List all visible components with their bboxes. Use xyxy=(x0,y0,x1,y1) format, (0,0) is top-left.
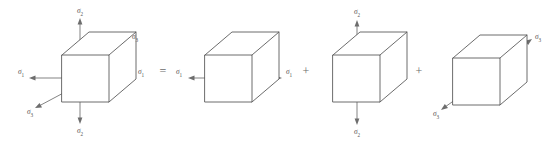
label-sigma-2-top: σ2 xyxy=(77,6,84,17)
label-sigma-2-top: σ2 xyxy=(354,7,361,18)
cube-front-face xyxy=(205,55,252,102)
sigma-1-left-arrow xyxy=(29,76,62,81)
stress-decomposition-figure: σ2 σ2 σ1 σ1 σ3 σ3 = xyxy=(0,0,551,141)
triaxial-stress-cube xyxy=(29,18,136,124)
uniaxial-sigma3-cube xyxy=(441,35,532,110)
label-sigma-3-upper: σ3 xyxy=(535,32,542,43)
plus-sign-2: + xyxy=(416,64,423,78)
uniaxial-sigma2-cube xyxy=(333,20,407,125)
label-sigma-3-lower: σ3 xyxy=(27,107,34,118)
equals-sign: = xyxy=(160,64,167,78)
label-sigma-3-lower: σ3 xyxy=(433,109,440,120)
uniaxial-sigma1-cube xyxy=(188,32,282,102)
figure-canvas: σ2 σ2 σ1 σ1 σ3 σ3 = xyxy=(0,0,551,141)
label-sigma-1-left: σ1 xyxy=(18,67,25,78)
label-sigma-2-bottom: σ2 xyxy=(354,127,361,138)
plus-sign-1: + xyxy=(303,64,310,78)
label-sigma-1-right: σ1 xyxy=(286,67,293,78)
cube-front-face xyxy=(333,55,380,102)
cube-front-face xyxy=(62,55,109,102)
sigma-1-left-arrow xyxy=(188,76,205,81)
label-sigma-1-right: σ1 xyxy=(138,67,145,78)
label-sigma-2-bottom: σ2 xyxy=(77,126,84,137)
cube-front-face xyxy=(453,58,500,105)
label-sigma-1-left: σ1 xyxy=(176,67,183,78)
